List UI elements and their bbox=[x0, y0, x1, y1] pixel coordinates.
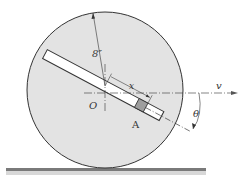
velocity-arrowhead bbox=[231, 91, 238, 95]
slider-label: A bbox=[131, 119, 140, 130]
x-label: x bbox=[129, 81, 134, 91]
ground bbox=[6, 168, 206, 175]
origin-label: O bbox=[89, 100, 97, 111]
angle-label: θ bbox=[193, 108, 199, 119]
radius-label: 8″ bbox=[92, 48, 102, 59]
velocity-label: v bbox=[216, 80, 222, 91]
diagram-canvas: 8″ x O A v θ bbox=[0, 0, 248, 184]
